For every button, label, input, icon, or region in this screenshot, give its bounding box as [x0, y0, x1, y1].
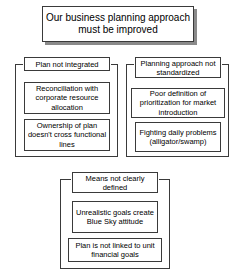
node-reconciliation-corporate-resource-allocation: Reconciliation with corporate resource a… — [24, 82, 110, 114]
node-fighting-daily-problems: Fighting daily problems (alligator/swamp… — [135, 122, 221, 152]
title-box-text: Our business planning approach must be i… — [42, 6, 194, 42]
node-plan-not-linked-to-financial-goals: Plan is not linked to unit financial goa… — [68, 238, 162, 262]
cluster-planning-approach-not-standardized: Planning approach not standardized Poor … — [126, 57, 229, 157]
business-planning-diagram: Our business planning approach must be i… — [0, 0, 237, 280]
cluster-means-not-clearly-defined: Means not clearly defined Unrealistic go… — [60, 172, 170, 269]
diagram-title: Our business planning approach must be i… — [42, 6, 194, 42]
node-unrealistic-goals-blue-sky: Unrealistic goals create Blue Sky attitu… — [72, 201, 158, 233]
node-ownership-of-plan: Ownership of plan doesn't cross function… — [24, 119, 110, 151]
cluster-header-plan-not-integrated: Plan not integrated — [24, 57, 110, 71]
cluster-plan-not-integrated: Plan not integrated Reconciliation with … — [15, 57, 118, 157]
cluster-header-means-not-clearly-defined: Means not clearly defined — [72, 172, 158, 193]
node-poor-definition-of-prioritization: Poor definition of prioritization for ma… — [131, 88, 225, 118]
cluster-header-planning-approach-not-standardized: Planning approach not standardized — [135, 57, 221, 78]
